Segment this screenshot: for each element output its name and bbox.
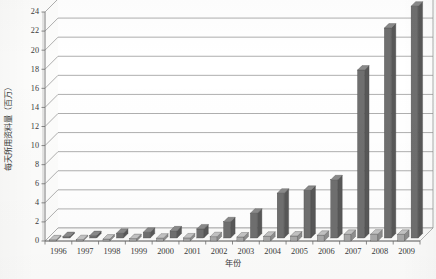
bar-back-series (358, 66, 370, 238)
bar-front-face (358, 70, 365, 238)
bar-front-face (344, 234, 351, 241)
bar-side-face (391, 24, 396, 238)
y-tick-label: 0 (35, 236, 39, 245)
bar-front-face (103, 239, 110, 241)
x-tick-label: 2000 (157, 247, 174, 256)
bar-front-face (304, 190, 311, 238)
bar-side-face (311, 186, 316, 238)
x-tick-label: 2003 (238, 247, 255, 256)
grid-depth-line (45, 133, 58, 146)
bar-front-face (264, 236, 271, 241)
x-tick-label: 1996 (50, 247, 67, 256)
grid-depth-line (45, 75, 58, 88)
y-tick-label: 22 (31, 26, 39, 35)
bar-chart-plot: 0246810121416182022241996199719981999200… (0, 0, 436, 279)
bar-front-face (63, 237, 70, 238)
bar-back-series (250, 209, 262, 238)
bar-front-face (371, 234, 378, 241)
bar-side-face (257, 209, 262, 238)
bar-front-face (277, 193, 284, 238)
grid-depth-line (45, 114, 58, 127)
bar-side-face (284, 189, 289, 238)
bar-front-face (317, 235, 324, 241)
x-tick-label: 1999 (130, 247, 147, 256)
y-axis-title: 每天所用资料量（百万） (3, 83, 13, 171)
grid-depth-line (45, 18, 58, 31)
grid-depth-line (45, 0, 58, 12)
y-tick-label: 8 (35, 160, 39, 169)
bar-front-face (90, 236, 97, 238)
bar-back-series (224, 217, 236, 238)
x-tick-label: 2007 (345, 247, 362, 256)
grid-depth-line (45, 56, 58, 69)
y-tick-label: 24 (31, 7, 39, 16)
x-tick-label: 1998 (104, 247, 121, 256)
bar-back-series (384, 24, 396, 238)
grid-depth-line (45, 209, 58, 222)
bar-back-series (277, 189, 289, 238)
x-tick-label: 1997 (77, 247, 94, 256)
y-tick-label: 2 (35, 217, 39, 226)
x-axis-title: 年份 (225, 258, 241, 268)
x-tick-label: 2009 (398, 247, 415, 256)
y-tick-label: 16 (31, 84, 39, 93)
bar-front-face (237, 237, 244, 241)
x-tick-label: 2004 (264, 247, 282, 256)
x-tick-label: 2006 (318, 247, 335, 256)
bar-front-face (290, 236, 297, 241)
grid-depth-line (45, 190, 58, 203)
bar-front-face (197, 229, 204, 238)
y-tick-label: 20 (31, 46, 39, 55)
bar-side-face (418, 2, 423, 238)
grid-depth-line (45, 152, 58, 165)
y-tick-label: 12 (31, 122, 39, 131)
y-tick-label: 18 (31, 65, 39, 74)
bar-front-face (116, 233, 123, 238)
bar-front-face (224, 222, 231, 238)
grid-depth-line (45, 37, 58, 50)
bar-front-face (170, 231, 177, 238)
bar-side-face (338, 175, 343, 238)
bar-front-face (411, 6, 418, 238)
y-tick-label: 6 (35, 179, 39, 188)
bar-back-series (304, 186, 316, 238)
y-tick-label: 10 (31, 141, 39, 150)
x-tick-label: 2005 (291, 247, 308, 256)
chart-container: 0246810121416182022241996199719981999200… (0, 0, 436, 279)
bar-side-face (365, 66, 370, 238)
bar-front-face (76, 240, 83, 241)
x-tick-label: 2002 (211, 247, 228, 256)
x-tick-label: 2001 (184, 247, 201, 256)
bar-front-face (157, 238, 164, 241)
bar-front-face (130, 239, 137, 241)
bar-front-face (398, 234, 405, 241)
bar-front-face (143, 232, 150, 238)
bar-front-face (183, 238, 190, 241)
bar-front-face (250, 213, 257, 238)
bar-front-face (331, 180, 338, 238)
bar-front-face (210, 237, 217, 241)
y-tick-label: 14 (31, 103, 39, 112)
grid-depth-line (45, 94, 58, 107)
y-tick-label: 4 (35, 198, 39, 207)
grid-depth-line (45, 171, 58, 184)
bar-back-series (411, 2, 423, 238)
bar-back-series (331, 175, 343, 238)
bar-front-face (384, 28, 391, 238)
back-wall (58, 0, 433, 228)
x-tick-label: 2008 (371, 247, 388, 256)
